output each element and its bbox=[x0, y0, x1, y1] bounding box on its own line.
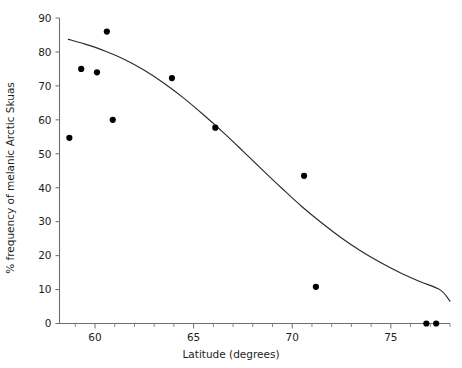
data-point-marker bbox=[433, 320, 439, 326]
y-axis: 0102030405060708090 bbox=[38, 12, 59, 330]
y-tick-label: 10 bbox=[38, 283, 51, 295]
data-point-marker bbox=[212, 125, 218, 131]
x-tick-label: 75 bbox=[384, 331, 397, 343]
y-tick-label: 20 bbox=[38, 249, 51, 261]
y-tick-label: 40 bbox=[38, 182, 51, 194]
y-axis-title: % frequency of melanic Arctic Skuas bbox=[4, 82, 16, 274]
data-point-marker bbox=[169, 75, 175, 81]
y-tick-label: 30 bbox=[38, 215, 51, 227]
data-point-marker bbox=[66, 135, 72, 141]
y-tick-label: 50 bbox=[38, 148, 51, 160]
y-tick-label: 80 bbox=[38, 46, 51, 58]
y-tick-label: 90 bbox=[38, 12, 51, 24]
fitted-curve bbox=[68, 39, 450, 301]
y-tick-label: 0 bbox=[45, 317, 52, 329]
x-tick-label: 60 bbox=[88, 331, 101, 343]
x-axis-title: Latitude (degrees) bbox=[182, 348, 279, 360]
scatter-plot: 0102030405060708090 60657075 Latitude (d… bbox=[0, 0, 462, 368]
data-point-marker bbox=[78, 66, 84, 72]
data-point-marker bbox=[423, 320, 429, 326]
data-point-marker bbox=[301, 173, 307, 179]
data-point-marker bbox=[94, 69, 100, 75]
data-point-marker bbox=[104, 28, 110, 34]
chart-container: 0102030405060708090 60657075 Latitude (d… bbox=[0, 0, 462, 368]
x-tick-label: 65 bbox=[187, 331, 200, 343]
y-tick-label: 60 bbox=[38, 114, 51, 126]
y-tick-label: 70 bbox=[38, 80, 51, 92]
data-point-marker bbox=[110, 117, 116, 123]
x-tick-label: 70 bbox=[286, 331, 299, 343]
x-axis: 60657075 bbox=[60, 324, 451, 343]
fitted-curve-path bbox=[68, 39, 450, 301]
data-point-marker bbox=[313, 284, 319, 290]
data-points bbox=[66, 28, 439, 326]
